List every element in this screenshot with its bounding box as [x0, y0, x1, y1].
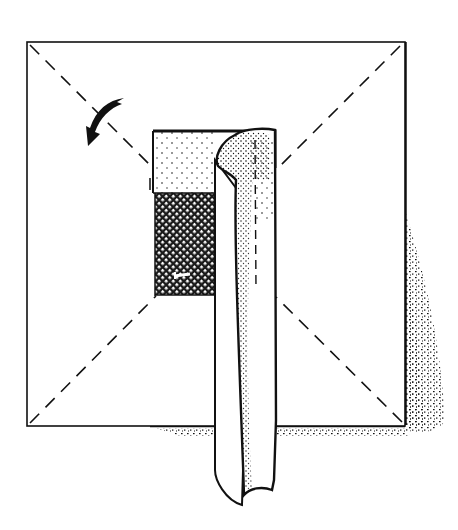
dotted-upper-panel	[153, 131, 215, 193]
folding-diagram	[0, 0, 458, 530]
curled-hanging-strip	[215, 129, 276, 505]
crosshatched-lower-panel	[155, 193, 215, 295]
small-arrow-icon	[174, 274, 190, 276]
